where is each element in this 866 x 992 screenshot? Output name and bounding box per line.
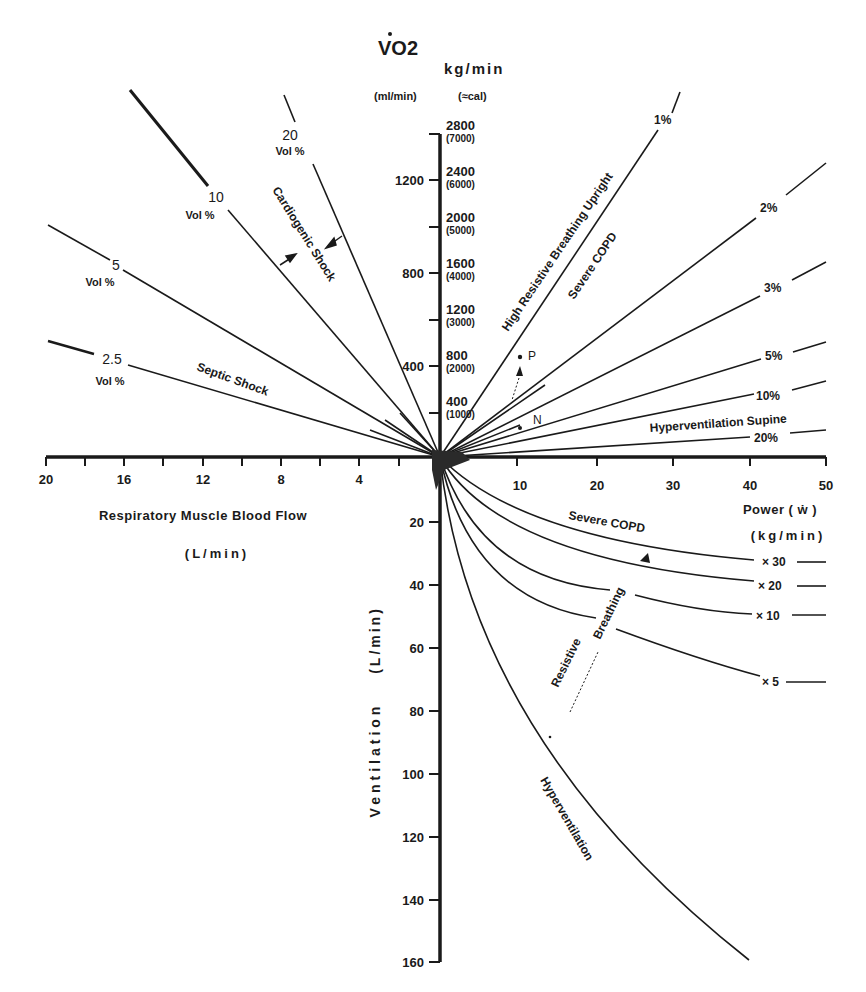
- upper-left-lines: [48, 90, 440, 457]
- line-5vol: [123, 270, 440, 457]
- curve-hyperventilation: [440, 457, 749, 960]
- label-2pct: 2%: [760, 201, 778, 215]
- label-5: 5: [112, 257, 120, 273]
- vo2-tick-800: 800: [402, 266, 424, 281]
- line-10vol-top: [130, 90, 208, 186]
- label-10pct: 10%: [756, 389, 780, 403]
- vo2-tick-1200: 1200: [395, 173, 424, 188]
- label-20-unit: Vol %: [275, 145, 304, 157]
- work-tick-2800: 2800: [446, 118, 475, 133]
- left-axis-unit: (L/min): [185, 546, 249, 561]
- work-tick-800-sub: (2000): [446, 363, 475, 374]
- label-10-unit: Vol %: [185, 209, 214, 221]
- work-tick-400: 400: [446, 394, 468, 409]
- left-tick-4: 4: [355, 472, 363, 487]
- arrow-icon: [640, 553, 650, 563]
- line-2.5vol: [128, 365, 440, 457]
- right-tick-50: 50: [819, 478, 833, 493]
- label-x30: × 30: [762, 555, 786, 569]
- point-n-dot: [518, 426, 522, 430]
- label-2.5-unit: Vol %: [95, 375, 124, 387]
- vent-tick-140: 140: [402, 893, 424, 908]
- work-tick-800: 800: [446, 348, 468, 363]
- work-unit: kg/min: [444, 60, 504, 77]
- line-20vol-top: [284, 95, 295, 122]
- work-tick-2400: 2400: [446, 164, 475, 179]
- breathing-label: Breathing: [590, 585, 627, 641]
- curve-x10b: [635, 595, 752, 614]
- vo2-unit: (ml/min): [374, 90, 417, 102]
- left-axis-labels: 20 16 12 8 4 Respiratory Muscle Blood Fl…: [39, 472, 364, 561]
- left-tick-8: 8: [277, 472, 284, 487]
- bottom-axis-title: Ventilation: [367, 703, 383, 818]
- right-tick-40: 40: [743, 478, 757, 493]
- label-20pct: 20%: [754, 431, 778, 445]
- label-2.5: 2.5: [102, 351, 122, 367]
- right-axis-labels: 10 20 30 40 50 Power ( ẇ ) (kg/min): [513, 478, 833, 543]
- arrow-icon: [326, 238, 336, 248]
- resistive-label: Resistive: [548, 636, 584, 690]
- vo2-tick-400: 400: [402, 359, 424, 374]
- dotted-path: [512, 378, 519, 400]
- vent-tick-120: 120: [402, 830, 424, 845]
- line-5pct: [440, 359, 761, 457]
- work-tick-2000-sub: (5000): [446, 225, 475, 236]
- label-x20: × 20: [758, 579, 782, 593]
- line-5vol-top: [48, 225, 110, 260]
- line-10vol: [228, 210, 440, 457]
- work-tick-1600: 1600: [446, 256, 475, 271]
- work-tick-2400-sub: (6000): [446, 179, 475, 190]
- label-x10: × 10: [756, 609, 780, 623]
- label-3pct: 3%: [764, 281, 782, 295]
- hyperventilation-label: Hyperventilation: [537, 775, 596, 863]
- label-10: 10: [208, 189, 224, 205]
- arrow-up-icon: [516, 366, 523, 376]
- right-tick-20: 20: [590, 478, 604, 493]
- vent-tick-60: 60: [410, 641, 424, 656]
- left-tick-12: 12: [196, 472, 210, 487]
- vo2-title: VO2: [378, 37, 418, 59]
- work-tick-1200: 1200: [446, 302, 475, 317]
- work-unit-sub: (≈cal): [458, 90, 487, 102]
- line-2.5vol-top: [48, 341, 94, 354]
- left-axis-title: Respiratory Muscle Blood Flow: [99, 508, 307, 523]
- lower-right-labels: × 30 × 20 × 10 × 5 Severe COPD Resistive…: [537, 508, 786, 863]
- point-n-label: N: [533, 413, 542, 427]
- line-20vol: [313, 164, 440, 457]
- vent-tick-80: 80: [410, 704, 424, 719]
- work-tick-2800-sub: (7000): [446, 133, 475, 144]
- bottom-axis-labels: 20 40 60 80 100 120 140 160 Ventilation …: [367, 515, 424, 970]
- point-p-dot: [518, 355, 522, 359]
- vent-tick-100: 100: [402, 767, 424, 782]
- upper-left-labels: 20 Vol % 10 Vol % 5 Vol % 2.5 Vol % Card…: [85, 127, 339, 399]
- point-p-label: P: [528, 349, 536, 363]
- right-tick-30: 30: [666, 478, 680, 493]
- right-tick-10: 10: [513, 478, 527, 493]
- curve-x30: [440, 457, 754, 560]
- vent-tick-20: 20: [410, 515, 424, 530]
- label-x5: × 5: [762, 675, 779, 689]
- right-axis-unit: (kg/min): [751, 528, 826, 543]
- septic-shock-label: Septic Shock: [195, 360, 271, 399]
- right-axis-title: Power ( ẇ ): [743, 502, 817, 517]
- label-1pct: 1%: [654, 113, 672, 127]
- line-3pct: [440, 296, 760, 457]
- label-5-unit: Vol %: [85, 276, 114, 288]
- vent-tick-160: 160: [402, 955, 424, 970]
- work-tick-2000: 2000: [446, 210, 475, 225]
- left-tick-16: 16: [117, 472, 131, 487]
- nomogram: 20 16 12 8 4 Respiratory Muscle Blood Fl…: [0, 0, 866, 992]
- vent-tick-40: 40: [410, 578, 424, 593]
- label-5pct: 5%: [765, 349, 783, 363]
- bottom-axis-unit: (L/min): [367, 606, 383, 674]
- dot: [549, 736, 552, 739]
- work-tick-1200-sub: (3000): [446, 317, 475, 328]
- left-tick-20: 20: [39, 472, 53, 487]
- curve-x5b: [616, 629, 760, 676]
- vo2-dot-icon: [388, 32, 392, 36]
- label-20: 20: [282, 127, 298, 143]
- work-tick-1600-sub: (4000): [446, 271, 475, 282]
